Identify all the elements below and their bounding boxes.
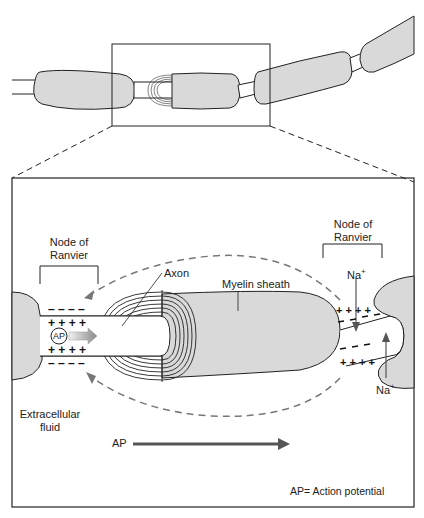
svg-text:+ + + +: + + + + (336, 304, 371, 316)
svg-text:+ + + +: + + + + (340, 356, 375, 368)
legend-ap: AP= Action potential (290, 485, 384, 498)
extracellular-line2: fluid (14, 421, 86, 434)
projection-line-left (12, 126, 112, 178)
axon-label: Axon (164, 267, 189, 280)
ap-badge-label: AP (51, 330, 67, 342)
svg-text:+ + + +: + + + + (48, 343, 86, 357)
myelin-sheath-label: Myelin sheath (222, 278, 290, 291)
projection-line-right (270, 126, 414, 182)
left-myelin-segment (12, 292, 43, 380)
left-node-bracket (40, 266, 98, 284)
right-node-bracket (323, 244, 382, 258)
extracellular-fluid-label: Extracellular fluid (14, 408, 86, 434)
right-node-label-line2: Ranvier (320, 231, 386, 244)
extracellular-line1: Extracellular (14, 408, 86, 421)
svg-text:– – – –: – – – – (48, 356, 85, 370)
left-node-label: Node of Ranvier (36, 236, 102, 262)
right-node-label: Node of Ranvier (320, 218, 386, 244)
svg-text:+ + + +: + + + + (48, 316, 86, 330)
na-label-bottom: Na+ (376, 380, 395, 397)
current-loop-bottom (90, 376, 340, 416)
na-bottom-sup: + (390, 382, 395, 391)
na-label-top: Na+ (347, 265, 366, 282)
left-node-label-line2: Ranvier (36, 249, 102, 262)
na-bottom-text: Na (376, 384, 390, 396)
right-node-label-line1: Node of (320, 218, 386, 231)
svg-text:– – – –: – – – – (48, 302, 85, 316)
na-top-text: Na (347, 269, 361, 281)
ap-arrow-label: AP (112, 437, 127, 450)
overview-axon (12, 16, 414, 109)
left-node-label-line1: Node of (36, 236, 102, 249)
na-top-sup: + (361, 267, 366, 276)
